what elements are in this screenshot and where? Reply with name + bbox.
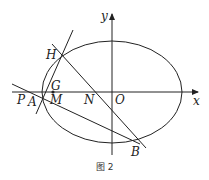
line-HB bbox=[52, 44, 146, 148]
label-N: N bbox=[83, 93, 95, 107]
label-B: B bbox=[130, 145, 140, 159]
label-P: P bbox=[16, 93, 26, 107]
figure-caption: 图 2 bbox=[96, 162, 114, 172]
ellipse-diagram: y x H G P A M N O B 图 2 bbox=[0, 0, 209, 180]
label-G: G bbox=[51, 79, 61, 93]
label-H: H bbox=[45, 48, 57, 62]
label-y: y bbox=[100, 9, 108, 23]
label-x: x bbox=[193, 94, 200, 108]
label-A: A bbox=[27, 95, 37, 109]
label-M: M bbox=[49, 93, 63, 107]
label-O: O bbox=[115, 93, 125, 107]
